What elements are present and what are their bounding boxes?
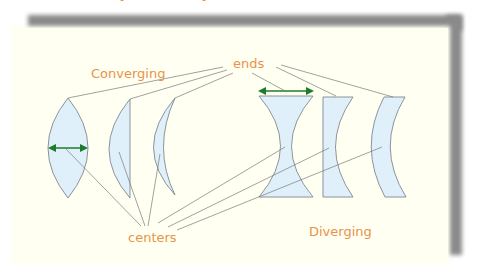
label-centers: centers [128,230,177,245]
label-converging: Converging [91,66,165,81]
lens-positive-meniscus [154,98,176,195]
lens-negative-meniscus [371,97,406,197]
label-diverging: Diverging [309,224,372,239]
lens-plano-convex [109,99,130,198]
lens-diagram: Converging ends centers Diverging [0,0,479,273]
lens-plano-concave [323,97,353,197]
label-ends: ends [233,56,264,71]
lens-biconcave [259,96,313,197]
